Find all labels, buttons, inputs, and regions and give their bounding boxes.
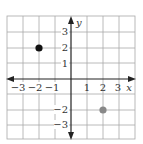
y-tick: 2	[62, 42, 68, 53]
x-tick: −1	[45, 82, 60, 93]
x-axis-label: x	[126, 82, 132, 93]
x-tick-labels: −3 −2 −1 1 2 3 x	[8, 82, 132, 93]
x-tick: 2	[100, 82, 106, 93]
coordinate-plane: −3 −2 −1 1 2 3 x y 3 2 1 −2 −3	[0, 0, 143, 144]
y-tick-labels: y 3 2 1 −2 −3	[53, 17, 82, 130]
y-tick: 1	[62, 58, 68, 69]
y-axis-up-arrow-icon	[68, 16, 74, 24]
y-tick: −2	[53, 104, 68, 115]
x-tick: 3	[115, 82, 121, 93]
x-tick: −3	[11, 82, 26, 93]
y-axis-label: y	[75, 17, 82, 28]
x-tick: 1	[84, 82, 90, 93]
y-tick: −3	[53, 119, 68, 130]
point-2-neg2	[99, 106, 106, 113]
point-neg2-2	[35, 44, 42, 51]
x-tick: −2	[28, 82, 43, 93]
y-tick: 3	[62, 26, 68, 37]
